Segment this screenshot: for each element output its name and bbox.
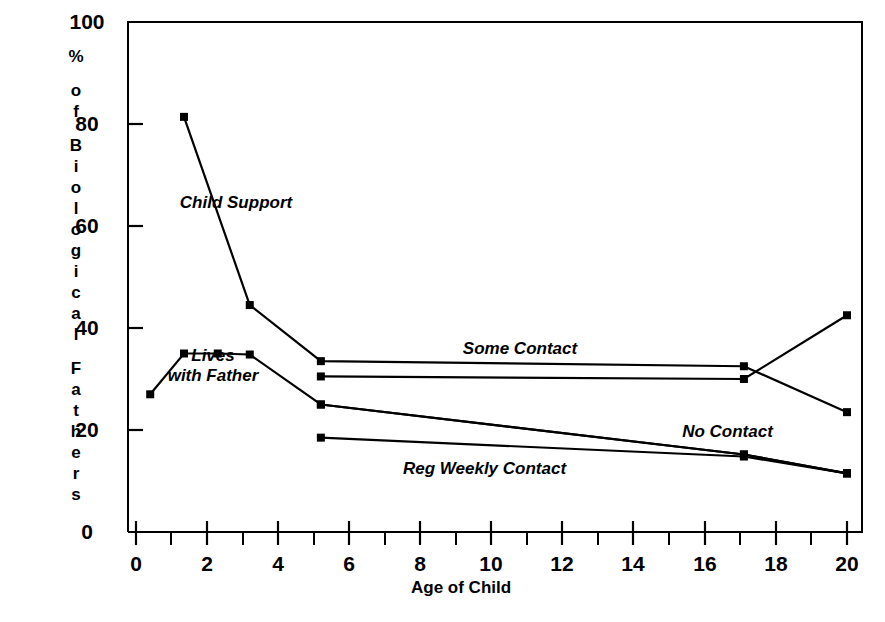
y-axis-ticks <box>128 124 143 430</box>
series-line <box>321 405 847 474</box>
data-point-marker <box>843 408 851 416</box>
series-line <box>321 315 847 379</box>
series-child-support <box>180 113 851 416</box>
data-point-marker <box>246 301 254 309</box>
data-point-marker <box>246 351 254 359</box>
data-point-marker <box>740 375 748 383</box>
plot-area <box>0 0 885 622</box>
data-point-marker <box>317 372 325 380</box>
data-point-marker <box>740 362 748 370</box>
series-no-contact <box>317 434 851 478</box>
data-series-layer <box>146 113 851 477</box>
data-point-marker <box>317 401 325 409</box>
data-point-marker <box>317 357 325 365</box>
data-point-marker <box>843 469 851 477</box>
data-point-marker <box>180 113 188 121</box>
data-point-marker <box>740 450 748 458</box>
series-reg-weekly-contact <box>317 401 851 478</box>
data-point-marker <box>180 350 188 358</box>
chart-figure: % o f B i o l o g i c a l F a t h e r s … <box>0 0 885 622</box>
data-point-marker <box>843 311 851 319</box>
series-line <box>321 438 847 474</box>
data-point-marker <box>214 350 222 358</box>
series-some-contact <box>317 311 851 383</box>
data-point-marker <box>317 434 325 442</box>
data-point-marker <box>146 390 154 398</box>
